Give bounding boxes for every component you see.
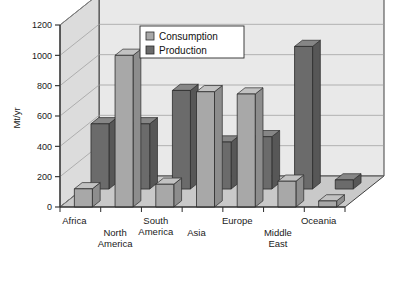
bar-production-4-side [272,131,280,190]
y-axis-tick-label-1000: 1000 [32,51,52,61]
bar-consumption-1-side [133,49,141,207]
y-axis-tick-label-200: 200 [37,172,52,182]
bar-consumption-0 [74,183,100,207]
bar-consumption-1 [115,49,141,207]
legend-label-0: Consumption [159,31,218,42]
x-axis-category-line: Europe [222,215,253,226]
x-axis-category-line: Africa [62,215,87,226]
bar-production-2 [172,84,198,189]
legend-swatch-1 [146,46,154,54]
legend-swatch-0 [146,32,154,40]
bar-consumption-3-side [215,86,223,207]
bar-consumption-4-front [237,94,255,207]
x-axis-category-line: Middle [264,227,292,238]
y-axis-tick-label-0: 0 [47,202,52,212]
bar-consumption-1-front [115,55,133,207]
x-axis-category-line: Oceania [301,215,337,226]
bar-production-2-front [172,90,190,189]
legend-label-1: Production [159,45,207,56]
bar-consumption-2-front [156,184,174,207]
x-axis-category-line: Asia [187,227,206,238]
bar-consumption-4 [237,88,263,207]
y-axis-title: Mt/yr [11,107,22,128]
bar-consumption-6-front [319,201,337,207]
bar-production-0-front [91,124,109,189]
x-axis-category-line: East [268,238,287,249]
bar-production-5-side [313,40,321,189]
grouped-bar-chart-3d: 120010008006004002000Mt/yrAfricaNorthAme… [0,0,404,290]
chart-container: 120010008006004002000Mt/yrAfricaNorthAme… [0,0,404,290]
bar-production-5 [295,40,321,189]
bar-consumption-3 [197,86,223,207]
bar-consumption-5 [278,175,304,207]
x-axis-category-label-4: Europe [222,215,253,226]
x-axis-category-line: America [98,238,134,249]
bar-consumption-2 [156,178,182,207]
x-axis-category-label-3: Asia [187,227,206,238]
x-axis-category-label-6: Oceania [301,215,337,226]
x-axis-category-label-5: MiddleEast [264,227,292,249]
y-axis-tick-label-800: 800 [37,81,52,91]
bar-consumption-0-front [74,189,92,207]
y-axis-tick-label-1200: 1200 [32,20,52,30]
x-axis-category-label-1: NorthAmerica [98,227,134,249]
bar-consumption-3-front [197,92,215,207]
bar-production-5-front [295,46,313,189]
bar-consumption-4-side [255,88,263,207]
chart-legend: ConsumptionProduction [140,26,244,58]
x-axis-category-line: South [143,215,168,226]
x-axis-category-line: America [138,226,174,237]
bar-production-1-side [150,118,158,189]
y-axis-tick-label-600: 600 [37,111,52,121]
bar-production-0 [91,118,117,189]
bar-production-6-front [335,180,353,189]
bar-consumption-5-front [278,181,296,207]
y-axis-tick-label-400: 400 [37,142,52,152]
x-axis-category-label-0: Africa [62,215,87,226]
x-axis-category-line: North [103,227,126,238]
x-axis-category-label-2: SouthAmerica [138,215,174,237]
